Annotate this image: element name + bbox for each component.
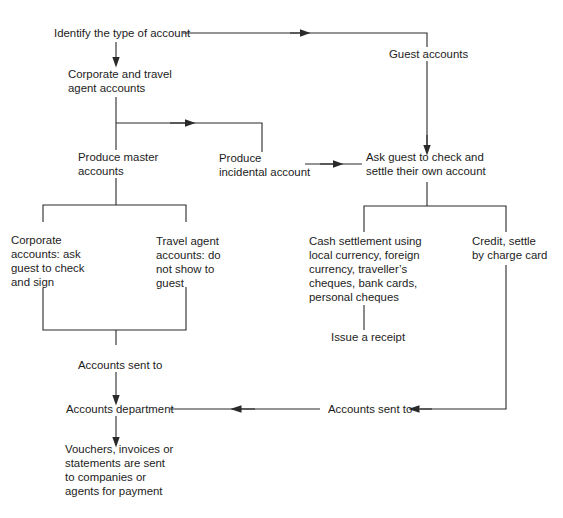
edge-credit-to-sent — [420, 265, 506, 409]
node-corporate-accounts: Corporate accounts: ask guest to check a… — [11, 233, 84, 289]
node-accounts-sent-to-left: Accounts sent to — [78, 358, 162, 372]
node-travel-agent-accounts: Travel agent accounts: do not show to gu… — [156, 234, 221, 290]
node-produce-incidental-account: Produce incidental account — [219, 151, 310, 179]
node-cash-settlement: Cash settlement using local currency, fo… — [309, 234, 422, 304]
account-settlement-flowchart: Identify the type of account Guest accou… — [0, 0, 563, 518]
node-vouchers-invoices: Vouchers, invoices or statements are sen… — [65, 442, 173, 498]
node-credit-charge-card: Credit, settle by charge card — [472, 234, 547, 262]
edge-corporate-to-incidental — [116, 123, 262, 152]
node-guest-accounts: Guest accounts — [388, 47, 469, 61]
edge-ask-branch — [364, 182, 506, 232]
edge-master-branch — [43, 178, 186, 222]
edge-branch-merge — [43, 287, 186, 345]
node-accounts-department: Accounts department — [66, 402, 174, 416]
node-corporate-travel-accounts: Corporate and travel agent accounts — [68, 67, 172, 95]
node-accounts-sent-to-right: Accounts sent to — [328, 402, 412, 416]
node-issue-receipt: Issue a receipt — [331, 330, 405, 344]
node-identify-account-type: Identify the type of account — [54, 26, 190, 40]
node-ask-guest-check-settle: Ask guest to check and settle their own … — [366, 150, 486, 178]
node-produce-master-accounts: Produce master accounts — [78, 150, 158, 178]
